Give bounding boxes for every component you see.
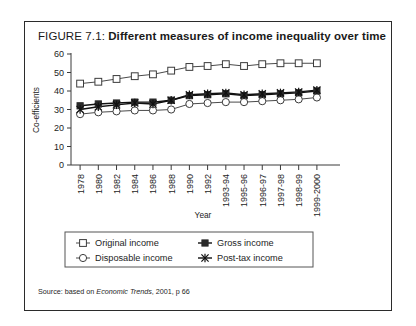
data-point-marker: [204, 99, 211, 106]
figure-container: FIGURE 7.1: Different measures of income…: [24, 21, 392, 311]
y-tick-label: 40: [54, 86, 64, 96]
y-tick-label: 50: [54, 68, 64, 78]
y-tick-label: 20: [54, 123, 64, 133]
data-point-marker: [240, 99, 247, 106]
legend-entry: Original income: [76, 238, 159, 248]
data-point-marker: [241, 63, 248, 70]
data-point-marker: [150, 71, 157, 78]
x-tick-label: 1986: [148, 174, 158, 194]
data-point-marker: [259, 61, 266, 68]
y-axis: 0102030405060: [54, 49, 71, 170]
source-note: Source: based on Economic Trends, 2001, …: [38, 287, 190, 296]
x-tick-label: 1988: [167, 174, 177, 194]
data-point-marker: [295, 60, 302, 67]
x-tick-label: 1997-98: [276, 174, 286, 207]
y-tick-label: 60: [54, 49, 64, 59]
x-tick-label: 1978: [76, 174, 86, 194]
legend-entry: Post-tax income: [198, 253, 283, 263]
chart-legend: Original incomeGross incomeDisposable in…: [65, 232, 313, 267]
x-tick-label: 1993-94: [221, 174, 231, 207]
x-tick-label: 1998-99: [294, 174, 304, 207]
source-suffix: , 2001, p 66: [152, 287, 190, 296]
y-axis-title: Co-efficients: [31, 87, 41, 133]
data-point-marker: [186, 64, 193, 71]
line-chart: 0102030405060 19781980198219841986198819…: [25, 48, 391, 283]
chart-series-layer: [77, 60, 321, 118]
data-point-marker: [131, 73, 138, 80]
data-point-marker: [95, 78, 102, 85]
x-tick-label: 1982: [112, 174, 122, 194]
x-axis-title: Year: [195, 210, 212, 220]
data-point-marker: [222, 61, 229, 68]
source-publication: Economic Trends: [96, 287, 151, 296]
figure-number-label: FIGURE 7.1:: [38, 30, 105, 42]
data-point-marker: [313, 60, 320, 67]
x-tick-label: 1980: [94, 174, 104, 194]
x-tick-label: 1992: [203, 174, 213, 194]
data-point-marker: [77, 80, 84, 87]
data-point-marker: [168, 106, 175, 113]
figure-headline: Different measures of income inequality …: [108, 30, 386, 42]
legend-entry: Gross income: [198, 238, 274, 248]
y-tick-label: 0: [59, 160, 64, 170]
data-point-marker: [204, 63, 211, 70]
x-tick-label: 1999-2000: [312, 174, 322, 217]
y-tick-label: 10: [54, 142, 64, 152]
data-point-marker: [295, 96, 302, 103]
x-tick-label: 1995-96: [239, 174, 249, 207]
data-point-marker: [277, 60, 284, 67]
legend-label: Disposable income: [95, 253, 173, 263]
chart-plot-region: 0102030405060 19781980198219841986198819…: [25, 48, 391, 283]
data-point-marker: [313, 94, 320, 101]
y-tick-label: 30: [54, 105, 64, 115]
legend-label: Gross income: [217, 238, 274, 248]
legend-label: Post-tax income: [217, 253, 283, 263]
data-point-marker: [259, 98, 266, 105]
data-point-marker: [113, 76, 120, 83]
data-point-marker: [186, 100, 193, 107]
x-tick-label: 1996-97: [258, 174, 268, 207]
data-point-marker: [277, 97, 284, 104]
figure-title: FIGURE 7.1: Different measures of income…: [38, 30, 386, 42]
legend-label: Original income: [95, 238, 159, 248]
data-point-marker: [168, 67, 175, 74]
x-tick-label: 1990: [185, 174, 195, 194]
data-point-marker: [131, 107, 138, 114]
data-point-marker: [222, 99, 229, 106]
source-prefix: Source: based on: [38, 287, 96, 296]
x-tick-label: 1984: [130, 174, 140, 194]
legend-entry: Disposable income: [76, 253, 173, 263]
